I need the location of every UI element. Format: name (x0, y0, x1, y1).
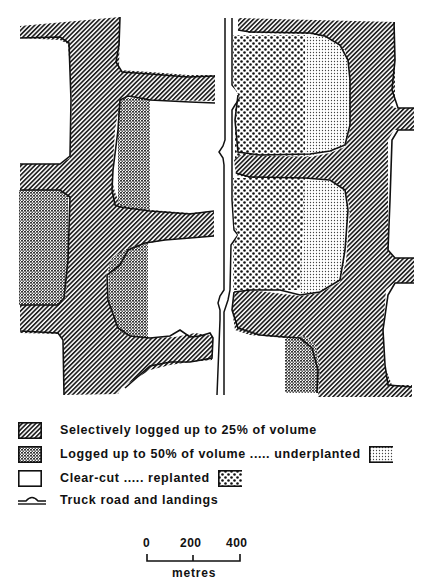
white-swatch-icon (18, 470, 42, 487)
left-edge-logged50-zone (19, 190, 68, 305)
left-outline-e (20, 331, 64, 395)
legend-label: Clear-cut ..... replanted (60, 471, 210, 485)
legend-item-clearcut: Clear-cut ..... replanted (18, 468, 242, 488)
scale-bar: 0 200 400 metres (140, 536, 260, 586)
legend-label: Truck road and landings (60, 493, 218, 507)
logging-pattern-map (0, 0, 428, 410)
legend-item-logged50: Logged up to 50% of volume ..... underpl… (18, 444, 393, 464)
left-outline-a (20, 37, 71, 164)
right-upper-replanted-zone (233, 35, 310, 160)
left-block (19, 17, 215, 395)
right-upper-underplanted-zone (305, 35, 350, 156)
legend-item-road: Truck road and landings (18, 490, 218, 510)
right-lower-logged50-zone (285, 336, 320, 393)
scale-bar-line (140, 552, 250, 564)
scale-tick-label: 0 (143, 536, 150, 550)
cross-hatch-swatch-icon (18, 446, 42, 463)
road-line-icon (18, 493, 46, 507)
diagonal-hatch-swatch-icon (18, 422, 42, 439)
right-block (232, 18, 414, 397)
scale-unit-label: metres (172, 566, 216, 580)
legend-label: Selectively logged up to 25% of volume (60, 423, 317, 437)
coarse-dots-swatch-icon (218, 470, 242, 487)
scale-tick-label: 400 (226, 536, 248, 550)
scale-tick-label: 200 (180, 536, 202, 550)
legend-item-selective: Selectively logged up to 25% of volume (18, 420, 317, 440)
fine-dots-swatch-icon (369, 446, 393, 463)
legend-label: Logged up to 50% of volume ..... underpl… (60, 447, 361, 461)
right-lower-replanted-zone (233, 178, 305, 290)
left-outline-b (116, 17, 215, 77)
